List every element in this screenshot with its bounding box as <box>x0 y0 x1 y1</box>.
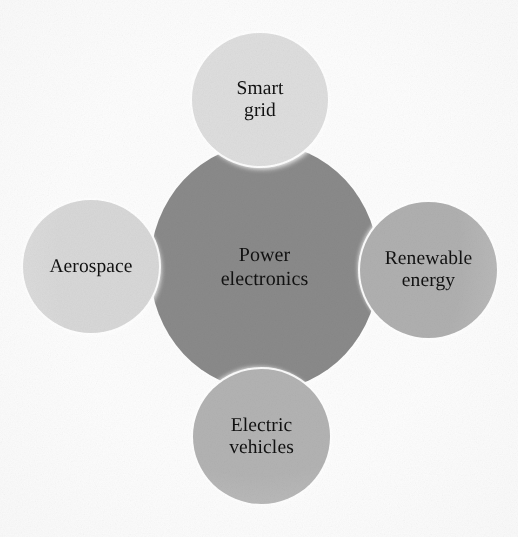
node-renewable-energy[interactable]: Renewable energy <box>360 202 497 338</box>
node-electric-vehicles[interactable]: Electric vehicles <box>193 369 330 504</box>
node-power-electronics[interactable]: Power electronics <box>150 144 379 390</box>
node-renewable-energy-label: Renewable energy <box>385 248 473 292</box>
node-power-electronics-label: Power electronics <box>221 243 309 292</box>
node-smart-grid-label: Smart grid <box>236 78 283 122</box>
diagram-canvas: Power electronics Smart grid Renewable e… <box>0 0 518 537</box>
node-electric-vehicles-label: Electric vehicles <box>229 415 294 459</box>
node-aerospace-label: Aerospace <box>49 256 132 278</box>
node-aerospace[interactable]: Aerospace <box>23 200 159 333</box>
node-smart-grid[interactable]: Smart grid <box>192 33 328 166</box>
